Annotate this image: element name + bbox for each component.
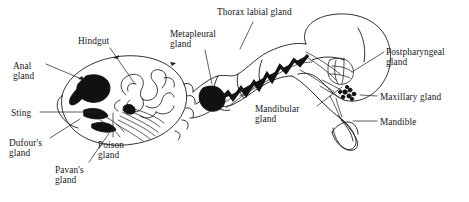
pavans-gland-shape bbox=[92, 122, 116, 132]
figure-canvas: Hindgut Anal gland Sting Dufour's gland … bbox=[0, 0, 469, 202]
label-sting: Sting bbox=[11, 108, 31, 118]
label-pavans-gland: Pavan's gland bbox=[55, 165, 84, 186]
label-mandible: Mandible bbox=[380, 117, 416, 127]
leader-postpharyngeal-gland bbox=[352, 52, 384, 72]
label-maxillary-gland: Maxillary gland bbox=[380, 92, 441, 102]
label-dufours-gland: Dufour's gland bbox=[9, 138, 42, 159]
label-postpharyngeal-gland: Postpharyngeal gland bbox=[386, 47, 445, 68]
label-thorax-labial-gland: Thorax labial gland bbox=[217, 7, 292, 17]
labial-gland-duct bbox=[222, 62, 312, 108]
dufours-gland-shape bbox=[84, 108, 108, 119]
postpharyngeal-gland-shape bbox=[320, 58, 354, 98]
leader-dufours-gland bbox=[50, 119, 80, 138]
label-anal-gland: Anal gland bbox=[13, 61, 34, 82]
label-poison-gland: Poison gland bbox=[98, 140, 124, 161]
label-metapleural-gland: Metapleural gland bbox=[170, 29, 216, 50]
label-hindgut: Hindgut bbox=[78, 36, 109, 46]
head-outline bbox=[292, 14, 391, 150]
label-mandibular-gland: Mandibular gland bbox=[255, 104, 299, 125]
leader-maxillary-gland bbox=[360, 95, 377, 96]
leader-thorax-labial-gland bbox=[240, 22, 253, 49]
leader-hindgut bbox=[110, 48, 135, 84]
leader-metapleural-gland bbox=[205, 50, 212, 84]
